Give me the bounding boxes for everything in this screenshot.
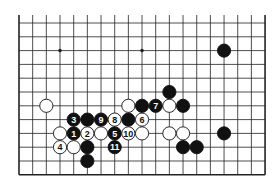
black-stone: 11 — [108, 141, 121, 154]
white-stone — [40, 99, 53, 112]
black-stone: 9 — [94, 113, 107, 126]
white-stone — [122, 99, 135, 112]
move-number: 7 — [153, 101, 158, 111]
white-stone: 6 — [135, 113, 148, 126]
move-number: 4 — [58, 142, 63, 152]
move-number: 10 — [123, 129, 133, 139]
move-number: 5 — [112, 129, 117, 139]
white-stone — [67, 141, 80, 154]
black-stone — [217, 44, 230, 57]
black-stone — [163, 85, 176, 98]
white-stone: 10 — [122, 127, 135, 140]
black-stone: 5 — [108, 127, 121, 140]
move-number: 3 — [71, 115, 76, 125]
star-point — [140, 49, 144, 53]
black-stone — [81, 141, 94, 154]
go-board: 7398612510411 — [0, 0, 279, 189]
black-stone — [176, 141, 189, 154]
move-number: 6 — [140, 115, 145, 125]
white-stone — [135, 127, 148, 140]
white-stone — [94, 127, 107, 140]
black-stone: 1 — [67, 127, 80, 140]
move-number: 9 — [99, 115, 104, 125]
black-stone — [176, 99, 189, 112]
black-stone — [217, 127, 230, 140]
black-stone — [81, 113, 94, 126]
white-stone: 2 — [81, 127, 94, 140]
move-number: 11 — [110, 142, 120, 152]
white-stone — [53, 127, 66, 140]
black-stone — [135, 99, 148, 112]
white-stone: 4 — [53, 141, 66, 154]
move-number: 8 — [112, 115, 117, 125]
white-stone — [163, 127, 176, 140]
black-stone — [122, 113, 135, 126]
black-stone — [190, 141, 203, 154]
black-stone: 7 — [149, 99, 162, 112]
move-number: 1 — [71, 129, 76, 139]
white-stone — [163, 99, 176, 112]
move-number: 2 — [85, 129, 90, 139]
white-stone — [176, 127, 189, 140]
star-point — [58, 49, 62, 53]
white-stone: 8 — [108, 113, 121, 126]
black-stone — [81, 154, 94, 167]
black-stone: 3 — [67, 113, 80, 126]
